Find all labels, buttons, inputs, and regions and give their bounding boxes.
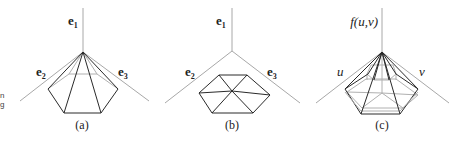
caption-b: (b) (225, 118, 239, 132)
axis-label-e1-a: e1 (68, 13, 78, 30)
axis-label-e1-b: e1 (216, 13, 226, 30)
axis-label-e2-a: e2 (36, 64, 46, 81)
caption-c: (c) (375, 118, 388, 132)
axis-label-u: u (337, 64, 344, 79)
axis-label-e2-b: e2 (185, 64, 195, 81)
axis-label-f-uv: f(u,v) (350, 14, 378, 29)
axes-b (165, 8, 300, 103)
caption-a: (a) (75, 118, 88, 132)
axis-label-e3-a: e3 (118, 64, 128, 81)
clipped-text-line-2: g (0, 100, 4, 109)
hexagon-b (199, 75, 270, 113)
panel-a: e1 e2 e3 (a) (20, 8, 149, 132)
panel-c: f(u,v) u v (c) (316, 8, 449, 132)
pyramid-c (345, 52, 418, 114)
clipped-text-line-1: n (0, 91, 4, 100)
diagram-canvas: n g e1 e2 e3 (a) (0, 0, 465, 142)
panel-b: e1 e2 e3 (b) (165, 8, 300, 132)
axis-label-v: v (419, 64, 425, 79)
pyramid-a (48, 52, 118, 113)
axis-label-e3-b: e3 (267, 64, 277, 81)
